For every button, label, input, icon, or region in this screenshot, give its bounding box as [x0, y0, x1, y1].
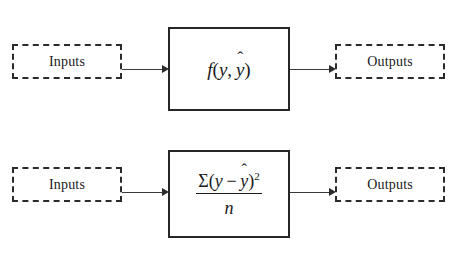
flow-row-mean-squared-error: Inputs Σ(y − ̂y)2 n Outputs [0, 140, 459, 250]
arrow-shaft [122, 69, 163, 70]
formula-comma: , [227, 59, 232, 80]
formula-term-y: y [215, 171, 223, 191]
flow-row-generic-loss: Inputs f(y, ̂y) Outputs [0, 17, 459, 127]
input-node-bottom[interactable]: Inputs [12, 167, 122, 202]
diagram-canvas: Inputs f(y, ̂y) Outputs Inputs Σ(y − ̂ [0, 0, 459, 253]
formula-term-yhat-base: y [240, 171, 248, 191]
formula-close-paren: ) [244, 59, 250, 80]
input-node-bottom-label: Inputs [49, 178, 85, 192]
process-node-bottom[interactable]: Σ(y − ̂y)2 n [168, 150, 290, 238]
formula-exponent: 2 [254, 170, 260, 182]
fraction-denominator: n [223, 194, 236, 217]
formula-arg-yhat: ̂y [236, 60, 244, 79]
formula-term-yhat: ̂y [240, 172, 248, 190]
formula-mean-squared-error: Σ(y − ̂y)2 n [196, 171, 261, 217]
output-node-top[interactable]: Outputs [335, 44, 445, 79]
arrow-process-to-output-bottom [290, 188, 336, 197]
output-node-bottom[interactable]: Outputs [335, 167, 445, 202]
input-node-top-label: Inputs [49, 55, 85, 69]
input-node-top[interactable]: Inputs [12, 44, 122, 79]
arrow-process-to-output-top [290, 65, 336, 74]
arrow-input-to-process-bottom [122, 188, 169, 197]
process-node-top[interactable]: f(y, ̂y) [168, 27, 290, 111]
output-node-top-label: Outputs [367, 55, 413, 69]
summation-sigma-icon: Σ [198, 171, 208, 191]
formula-generic-loss: f(y, ̂y) [207, 60, 250, 79]
arrow-shaft [122, 192, 163, 193]
output-node-bottom-label: Outputs [367, 178, 413, 192]
arrow-shaft [290, 69, 330, 70]
formula-minus-operator: − [226, 171, 236, 191]
fraction-numerator: Σ(y − ̂y)2 [196, 171, 261, 193]
arrow-input-to-process-top [122, 65, 169, 74]
formula-arg-yhat-base: y [236, 59, 244, 80]
arrow-shaft [290, 192, 330, 193]
